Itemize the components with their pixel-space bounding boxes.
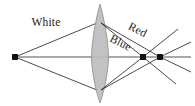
blue-label: Blue: [108, 32, 134, 53]
blue-focus-point: [140, 54, 146, 60]
biconvex-lens: [92, 4, 109, 103]
white-label: White: [31, 16, 60, 28]
chromatic-aberration-diagram: White Red Blue: [0, 0, 195, 106]
incident-ray-lower: [15, 57, 97, 90]
incident-ray-upper: [15, 23, 97, 57]
source-point: [12, 54, 18, 60]
red-focus-point: [157, 54, 163, 60]
red-label: Red: [127, 20, 150, 39]
optics-figure: White Red Blue: [0, 0, 195, 106]
